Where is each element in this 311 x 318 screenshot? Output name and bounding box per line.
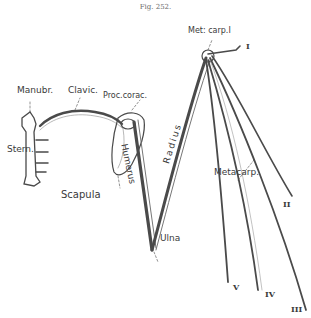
sternum	[22, 100, 48, 186]
humerus	[134, 122, 152, 250]
label-digit-I: I	[246, 42, 250, 50]
radius	[152, 58, 206, 250]
digit-III	[210, 58, 306, 310]
label-proc-corac: Proc.corac.	[103, 92, 147, 100]
label-digit-V: V	[233, 283, 239, 291]
label-manubrium: Manubr.	[17, 86, 53, 95]
label-digit-II: II	[283, 200, 290, 208]
label-digit-IV: IV	[265, 290, 275, 298]
label-digit-III: III	[291, 305, 302, 313]
label-sternum: Stern.	[7, 145, 34, 154]
label-metcarp-1: Met: carp.I	[188, 27, 231, 35]
digit-I	[208, 46, 240, 54]
label-metacarp: Metacarp.	[214, 168, 259, 177]
label-scapula: Scapula	[61, 190, 101, 200]
clavicle	[40, 111, 122, 126]
skeleton-drawing	[0, 0, 311, 318]
label-ulna: Ulna	[160, 234, 180, 243]
label-clavicle: Clavic.	[68, 86, 98, 95]
